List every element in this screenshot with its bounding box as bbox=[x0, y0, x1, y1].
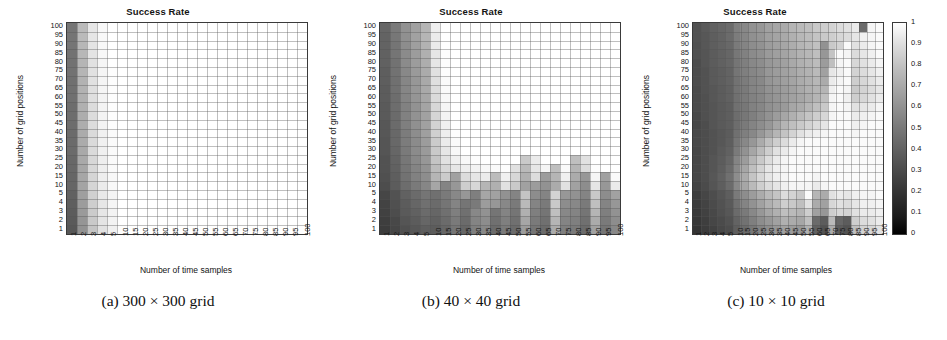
heatmap-cell bbox=[772, 164, 780, 173]
heatmap-cell bbox=[812, 49, 820, 58]
heatmap-cell bbox=[733, 146, 741, 155]
heatmap-cell bbox=[580, 32, 590, 41]
heatmap-cell bbox=[756, 41, 764, 50]
heatmap-cell bbox=[804, 181, 812, 190]
heatmap-cell bbox=[287, 199, 297, 208]
heatmap-cell bbox=[843, 93, 851, 102]
heatmap-cell bbox=[77, 41, 87, 50]
heatmap-cell bbox=[137, 172, 147, 181]
heatmap-cell bbox=[137, 216, 147, 225]
heatmap-cell bbox=[560, 199, 570, 208]
heatmap-cell bbox=[207, 216, 217, 225]
heatmap-cell bbox=[500, 164, 510, 173]
heatmap-cell bbox=[197, 181, 207, 190]
heatmap-cell bbox=[117, 41, 127, 50]
heatmap-cell bbox=[157, 146, 167, 155]
heatmap-cell bbox=[812, 111, 820, 120]
heatmap-cell bbox=[780, 32, 788, 41]
heatmap-cell bbox=[748, 190, 756, 199]
heatmap-cell bbox=[187, 208, 197, 217]
heatmap-cell bbox=[788, 67, 796, 76]
heatmap-cell bbox=[520, 58, 530, 67]
heatmap-cell bbox=[590, 111, 600, 120]
x-axis-tick: 70 bbox=[555, 228, 563, 236]
heatmap-cell bbox=[277, 164, 287, 173]
heatmap-cell bbox=[207, 155, 217, 164]
heatmap-cell bbox=[733, 199, 741, 208]
heatmap-cell bbox=[167, 164, 177, 173]
heatmap-cell bbox=[875, 85, 883, 94]
heatmap-cell bbox=[590, 164, 600, 173]
heatmap-cell bbox=[590, 120, 600, 129]
heatmap-cell bbox=[177, 32, 187, 41]
x-axis-tick: 20 bbox=[142, 228, 150, 236]
heatmap-cell bbox=[867, 67, 875, 76]
heatmap-cell bbox=[693, 23, 701, 32]
heatmap-cell bbox=[717, 137, 725, 146]
heatmap-cell bbox=[380, 32, 390, 41]
heatmap-cell bbox=[127, 208, 137, 217]
heatmap-cell bbox=[709, 32, 717, 41]
heatmap-cell bbox=[147, 137, 157, 146]
heatmap-cell bbox=[127, 85, 137, 94]
heatmap-cell bbox=[500, 172, 510, 181]
heatmap-cell bbox=[780, 199, 788, 208]
heatmap-cell bbox=[748, 199, 756, 208]
heatmap-cell bbox=[570, 155, 580, 164]
heatmap-cell bbox=[127, 181, 137, 190]
x-axis-ticks-b: 1234510152025303540455055606570758085909… bbox=[379, 236, 619, 264]
heatmap-cell bbox=[177, 181, 187, 190]
y-axis-tick: 2 bbox=[59, 216, 63, 224]
y-axis-tick: 75 bbox=[368, 67, 376, 75]
x-axis-tick: 45 bbox=[192, 228, 200, 236]
heatmap-cell bbox=[740, 49, 748, 58]
heatmap-cell bbox=[756, 49, 764, 58]
x-axis-label-b: Number of time samples bbox=[379, 265, 619, 275]
chart-title-a: Success Rate bbox=[0, 6, 316, 17]
heatmap-cell bbox=[756, 155, 764, 164]
heatmap-cell bbox=[297, 85, 307, 94]
heatmap-cell bbox=[390, 85, 400, 94]
heatmap-cell bbox=[772, 111, 780, 120]
heatmap-cell bbox=[701, 102, 709, 111]
heatmap-cell bbox=[867, 76, 875, 85]
heatmap-cell bbox=[67, 67, 77, 76]
heatmap-cell bbox=[540, 85, 550, 94]
heatmap-cell bbox=[733, 129, 741, 138]
heatmap-cell bbox=[277, 120, 287, 129]
heatmap-cell bbox=[701, 67, 709, 76]
heatmap-cell bbox=[420, 208, 430, 217]
heatmap-cell bbox=[560, 172, 570, 181]
heatmap-cell bbox=[540, 146, 550, 155]
heatmap-cell bbox=[835, 164, 843, 173]
heatmap-cell bbox=[177, 208, 187, 217]
heatmap-cell bbox=[859, 58, 867, 67]
heatmap-cell bbox=[693, 181, 701, 190]
heatmap-cell bbox=[167, 146, 177, 155]
heatmap-cell bbox=[580, 85, 590, 94]
heatmap-cell bbox=[207, 208, 217, 217]
heatmap-cell bbox=[610, 181, 620, 190]
heatmap-cell bbox=[460, 190, 470, 199]
heatmap-cell bbox=[460, 137, 470, 146]
heatmap-cell bbox=[875, 32, 883, 41]
heatmap-cell bbox=[167, 208, 177, 217]
heatmap-cell bbox=[87, 76, 97, 85]
y-axis-tick: 50 bbox=[368, 111, 376, 119]
heatmap-cell bbox=[137, 23, 147, 32]
heatmap-cell bbox=[87, 23, 97, 32]
heatmap-cell bbox=[297, 76, 307, 85]
y-axis-tick: 10 bbox=[55, 181, 63, 189]
heatmap-cell bbox=[788, 23, 796, 32]
heatmap-cell bbox=[580, 93, 590, 102]
heatmap-cell bbox=[490, 41, 500, 50]
heatmap-cell bbox=[859, 216, 867, 225]
heatmap-cell bbox=[440, 41, 450, 50]
heatmap-cell bbox=[600, 23, 610, 32]
heatmap-cell bbox=[187, 32, 197, 41]
colorbar-gradient bbox=[892, 22, 907, 235]
heatmap-cell bbox=[157, 23, 167, 32]
heatmap-cell bbox=[470, 67, 480, 76]
heatmap-cell bbox=[167, 199, 177, 208]
heatmap-cell bbox=[237, 199, 247, 208]
